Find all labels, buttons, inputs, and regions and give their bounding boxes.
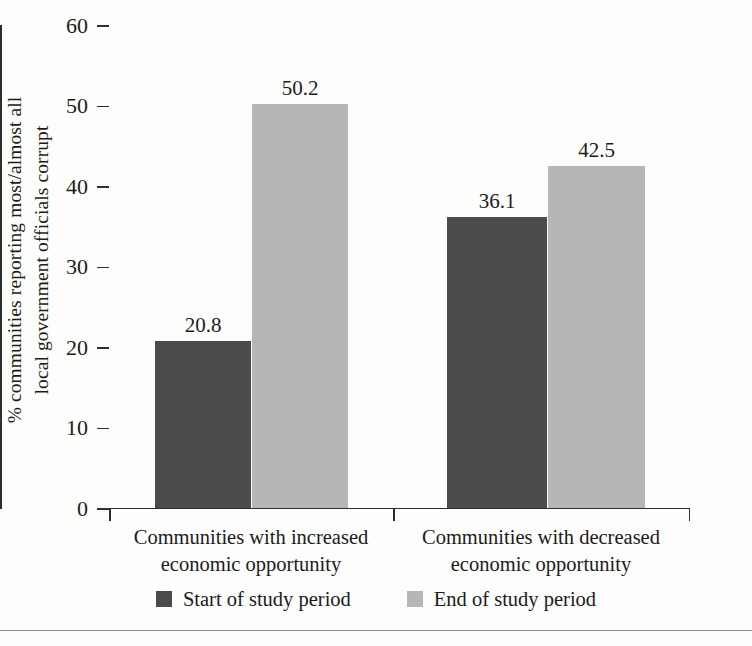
legend-swatch-icon-start [156,591,172,607]
bar-value-group2-end: 42.5 [578,140,615,161]
x-axis-category-label-1: Communities with increased economic oppo… [109,524,393,578]
legend-item-start-of-study-period: Start of study period [156,589,351,610]
y-axis-tick-0: 0 [97,508,109,510]
bar-group1-start: 20.8 [155,341,251,508]
category-1-line-2: economic opportunity [109,551,393,578]
category-2-line-1: Communities with decreased [393,524,689,551]
legend-label-end: End of study period [434,589,596,610]
y-axis-title: % communities reporting most/almost all … [0,0,56,520]
legend-swatch-icon-end [407,591,423,607]
bar-value-group1-start: 20.8 [185,315,222,336]
bar-value-group2-start: 36.1 [479,191,516,212]
legend-label-start: Start of study period [183,589,351,610]
y-axis-title-line-1: % communities reporting most/almost all [1,97,28,424]
y-axis-tick-30: 30 [97,267,109,269]
y-axis-tick-50: 50 [97,106,109,108]
y-axis-tick-10: 10 [97,428,109,430]
y-axis-tick-label-0: 0 [77,498,88,520]
y-axis-tick-label-30: 30 [66,256,88,278]
y-axis-tick-label-20: 20 [66,337,88,359]
y-axis-tick-20: 20 [97,347,109,349]
bar-value-group1-end: 50.2 [282,78,319,99]
y-axis-title-line-2: local government officials corrupt [28,97,55,424]
y-axis-tick-60: 60 [97,25,109,27]
x-axis-tick-left [109,509,111,521]
x-axis-category-label-2: Communities with decreased economic oppo… [393,524,689,578]
figure-bottom-rule [0,630,752,631]
legend-item-end-of-study-period: End of study period [407,589,596,610]
y-axis-tick-label-60: 60 [66,15,88,37]
bar-group2-start: 36.1 [447,217,547,508]
y-axis-tick-label-40: 40 [66,176,88,198]
bar-chart-figure: % communities reporting most/almost all … [0,0,752,646]
x-axis-tick-right [689,509,691,521]
category-2-line-2: economic opportunity [393,551,689,578]
bar-group2-end: 42.5 [548,166,645,508]
x-axis-tick-group-divider [393,509,395,521]
y-axis-tick-label-10: 10 [66,417,88,439]
category-1-line-1: Communities with increased [109,524,393,551]
bar-group1-end: 50.2 [252,104,348,508]
bars-layer: 20.8 50.2 36.1 42.5 [109,25,690,508]
y-axis-line [0,25,2,509]
y-axis-tick-label-50: 50 [66,95,88,117]
chart-legend: Start of study period End of study perio… [0,589,752,610]
y-axis-tick-40: 40 [97,186,109,188]
